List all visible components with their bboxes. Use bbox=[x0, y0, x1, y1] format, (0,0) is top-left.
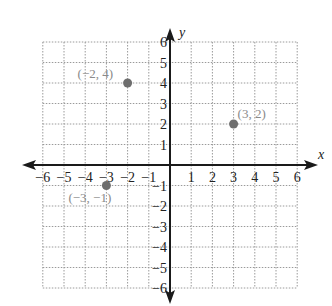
y-axis-label: y bbox=[177, 25, 186, 40]
y-tick-label: −4 bbox=[152, 240, 167, 255]
coordinate-plane: xy−6−5−4−3−2−1123456−6−5−4−3−2−1123456(−… bbox=[0, 0, 332, 306]
plot-svg: xy−6−5−4−3−2−1123456−6−5−4−3−2−1123456(−… bbox=[0, 0, 332, 306]
x-tick-label: 5 bbox=[273, 170, 280, 185]
data-point bbox=[123, 79, 132, 88]
y-tick-label: −5 bbox=[152, 261, 167, 276]
y-tick-label: 5 bbox=[160, 56, 167, 71]
y-tick-label: −2 bbox=[152, 199, 167, 214]
x-axis-label: x bbox=[317, 147, 325, 162]
y-tick-label: 6 bbox=[160, 35, 167, 50]
y-tick-label: 2 bbox=[160, 117, 167, 132]
x-tick-label: −2 bbox=[120, 170, 135, 185]
y-tick-label: 1 bbox=[160, 138, 167, 153]
point-label: (−2, 4) bbox=[78, 66, 114, 81]
x-tick-label: −6 bbox=[35, 170, 50, 185]
x-tick-label: 3 bbox=[230, 170, 237, 185]
y-tick-label: −3 bbox=[152, 220, 167, 235]
x-tick-label: 1 bbox=[188, 170, 195, 185]
y-tick-label: 3 bbox=[160, 97, 167, 112]
point-label: (−3, −1) bbox=[68, 190, 111, 205]
x-tick-label: −4 bbox=[78, 170, 93, 185]
x-tick-label: −5 bbox=[57, 170, 72, 185]
x-tick-label: 2 bbox=[209, 170, 216, 185]
point-label: (3, 2) bbox=[238, 106, 266, 121]
y-tick-label: 4 bbox=[160, 76, 167, 91]
x-tick-label: 4 bbox=[251, 170, 258, 185]
y-tick-label: −1 bbox=[152, 179, 167, 194]
x-tick-label: 6 bbox=[294, 170, 301, 185]
y-tick-label: −6 bbox=[152, 281, 167, 296]
